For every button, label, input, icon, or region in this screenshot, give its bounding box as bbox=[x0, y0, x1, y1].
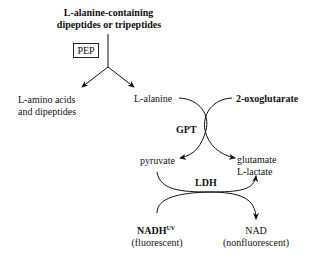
ldh-enzyme-label: LDH bbox=[195, 177, 217, 188]
pep-enzyme-box: PEP bbox=[73, 43, 99, 58]
gpt-enzyme-label: GPT bbox=[176, 124, 197, 135]
oxoglutarate-label: 2-oxoglutarate bbox=[236, 93, 298, 104]
l-alanine-label: L-alanine bbox=[134, 93, 172, 104]
pathway-arrows bbox=[0, 0, 317, 258]
pyruvate-label: pyruvate bbox=[140, 155, 175, 166]
nad-label: NAD bbox=[226, 225, 286, 236]
nadh-label: NADHUV bbox=[137, 225, 175, 236]
nadh-note: (fluorescent) bbox=[127, 237, 187, 248]
nad-note: (nonfluorescent) bbox=[216, 237, 296, 248]
nadh-name: NADH bbox=[137, 225, 166, 236]
glutamate-label: glutamate bbox=[237, 154, 276, 165]
nadh-superscript: UV bbox=[166, 225, 175, 231]
products-left-line2: and dipeptides bbox=[18, 106, 76, 117]
substrate-label-line2: dipeptides or tripeptides bbox=[53, 19, 165, 30]
l-lactate-label: L-lactate bbox=[237, 166, 273, 177]
products-left-line1: L-amino acids bbox=[18, 94, 75, 105]
substrate-label-line1: L-alanine-containing bbox=[55, 7, 162, 18]
